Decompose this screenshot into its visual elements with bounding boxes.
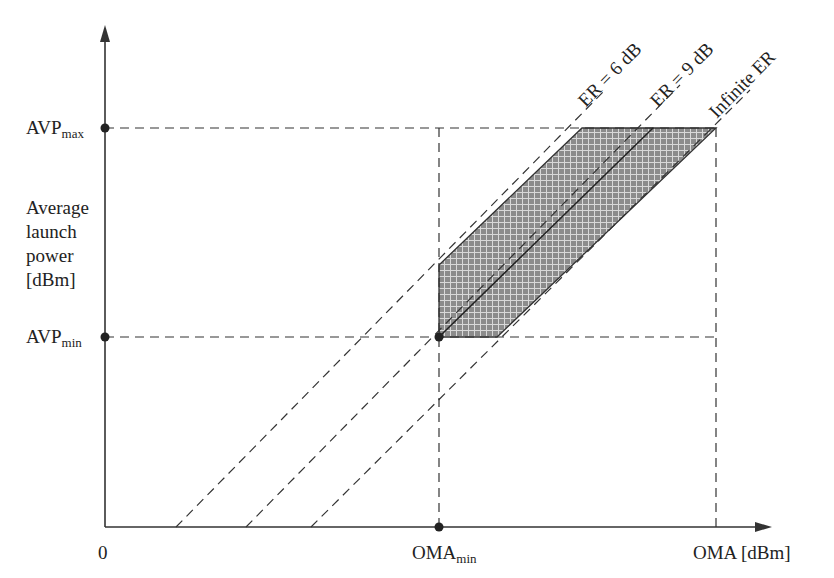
oma-min-label: OMAmin xyxy=(412,543,477,565)
y-axis-title-line: power xyxy=(26,244,106,268)
y-axis-title: Average launch power [dBm] xyxy=(26,196,106,292)
er-6db-line xyxy=(176,90,605,527)
avp-min-label: AVPmin xyxy=(26,327,82,349)
origin-label: 0 xyxy=(98,543,108,562)
avp-min-point xyxy=(101,333,110,342)
allowed-region xyxy=(439,128,716,337)
oma-min-avp-min-point xyxy=(435,333,444,342)
x-axis-title: OMA [dBm] xyxy=(693,543,791,562)
oma-min-point xyxy=(435,523,444,532)
er-9db-solid-segment xyxy=(439,128,653,337)
y-axis-title-line: launch xyxy=(26,220,106,244)
y-axis-arrow-icon xyxy=(100,25,110,42)
diagram-canvas xyxy=(0,0,834,578)
y-axis-title-line: Average xyxy=(26,196,106,220)
avp-max-label: AVPmax xyxy=(26,118,84,140)
avp-max-point xyxy=(101,124,110,133)
x-axis-arrow-icon xyxy=(755,522,772,532)
y-axis-title-line: [dBm] xyxy=(26,268,106,292)
infinite-er-line xyxy=(311,90,750,527)
